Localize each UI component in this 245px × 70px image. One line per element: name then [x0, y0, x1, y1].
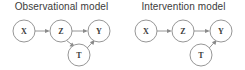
node-label-y: Y — [218, 27, 224, 36]
edge-z-to-y — [72, 29, 88, 33]
node-y-intervention[interactable]: Y — [210, 20, 232, 42]
panel-intervention-model: Intervention model X — [122, 0, 245, 70]
edge-z-to-y — [194, 29, 210, 33]
node-label-x: X — [143, 27, 149, 36]
node-label-y: Y — [96, 27, 102, 36]
edge-x-to-z — [35, 29, 50, 33]
node-y-observational[interactable]: Y — [88, 20, 110, 42]
node-label-t: T — [76, 51, 82, 60]
node-label-z: Z — [58, 27, 63, 36]
node-t-observational[interactable]: T — [68, 44, 90, 66]
node-label-z: Z — [180, 27, 185, 36]
graph-observational: X Z Y T — [0, 0, 123, 70]
node-z-observational[interactable]: Z — [50, 20, 72, 42]
node-z-intervention[interactable]: Z — [172, 20, 194, 42]
edge-x-to-z — [157, 29, 172, 33]
node-label-x: X — [21, 27, 27, 36]
node-x-observational[interactable]: X — [13, 20, 35, 42]
panel-observational-model: Observational model — [0, 0, 123, 70]
node-x-intervention[interactable]: X — [135, 20, 157, 42]
graph-intervention: X Z Y T — [122, 0, 245, 70]
causal-model-figure: Observational model — [0, 0, 245, 70]
node-label-t: T — [198, 51, 204, 60]
node-t-intervention[interactable]: T — [190, 44, 212, 66]
